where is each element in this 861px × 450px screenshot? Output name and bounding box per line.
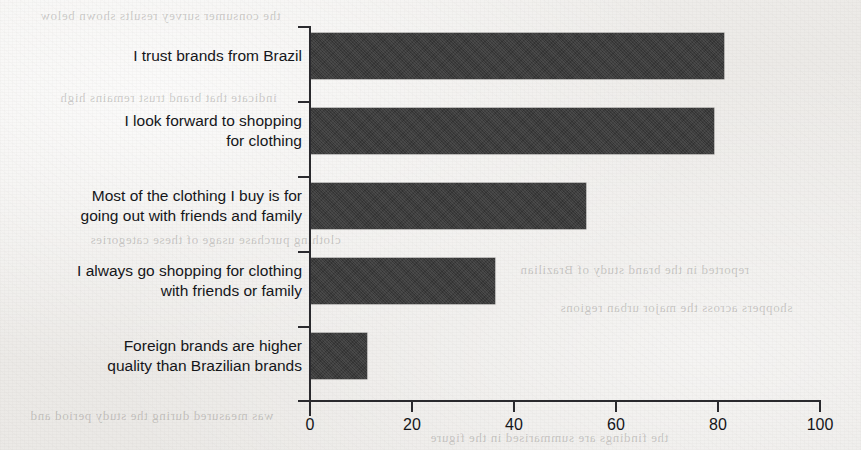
x-axis-tick-label: 20 — [403, 416, 421, 434]
x-axis-tick — [819, 400, 821, 412]
category-label: Foreign brands are higher quality than B… — [107, 336, 302, 376]
x-axis-tick — [513, 400, 515, 412]
x-axis-tick-label: 80 — [709, 416, 727, 434]
horizontal-bar-chart: I trust brands from Brazil I look forwar… — [0, 0, 861, 450]
x-axis-tick-label: 0 — [306, 416, 315, 434]
x-axis-tick — [309, 400, 311, 412]
y-axis-tick — [298, 176, 310, 178]
chart-page: the consumer survey results shown below … — [0, 0, 861, 450]
category-label: Most of the clothing I buy is for going … — [81, 186, 302, 226]
x-axis-tick-label: 40 — [505, 416, 523, 434]
y-axis-line — [309, 26, 311, 416]
category-label: I always go shopping for clothing with f… — [77, 261, 302, 301]
bar-clothing-for-going-out — [311, 183, 586, 229]
y-axis-tick — [298, 251, 310, 253]
category-label: I trust brands from Brazil — [133, 46, 302, 66]
y-axis-tick — [298, 101, 310, 103]
x-axis-tick — [411, 400, 413, 412]
y-axis-tick — [298, 26, 310, 28]
bar-foreign-brands-quality — [311, 333, 367, 379]
bar-shopping-with-friends — [311, 258, 495, 304]
bar-trust-brands-brazil — [311, 33, 724, 79]
x-axis-tick-label: 60 — [607, 416, 625, 434]
x-axis-line — [309, 400, 821, 402]
x-axis-tick — [615, 400, 617, 412]
x-axis-tick — [717, 400, 719, 412]
category-label: I look forward to shopping for clothing — [125, 111, 303, 151]
bar-look-forward-shopping — [311, 108, 714, 154]
y-axis-tick — [298, 326, 310, 328]
x-axis-tick-label: 100 — [807, 416, 834, 434]
